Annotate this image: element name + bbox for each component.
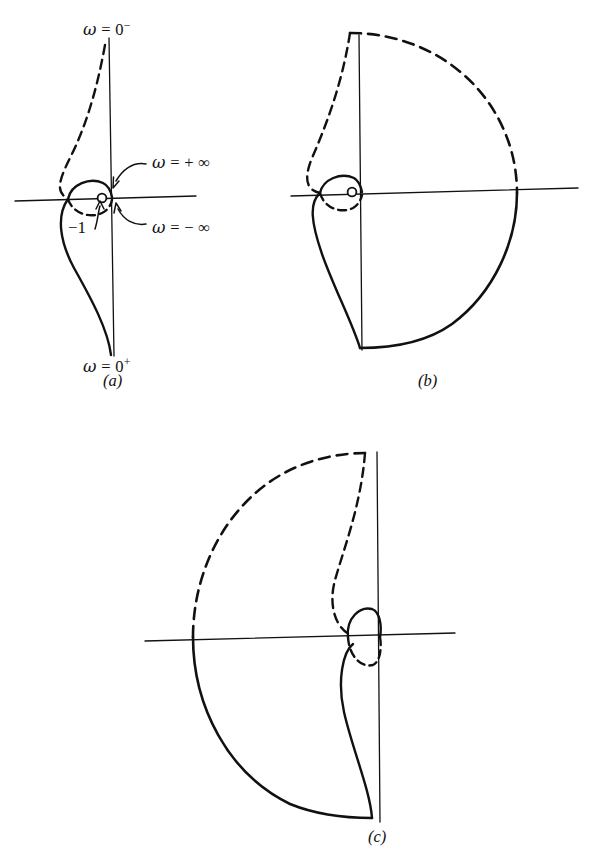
omega-minus-infinity-label: ω = − ∞ (152, 220, 210, 237)
minus-one-point-label: −1 (68, 219, 86, 236)
panel-c-group (145, 452, 455, 822)
panel-b-solid-arc (360, 193, 517, 348)
omega-plus-infinity-label: ω = + ∞ (152, 155, 210, 172)
panel-a-leader-plus-infinity (116, 164, 146, 181)
panel-c-dashed-arc (193, 453, 365, 637)
panel-b-caption: (b) (418, 373, 437, 390)
panel-c-caption: (c) (368, 829, 386, 846)
panel-c-solid-loop (348, 609, 381, 637)
panel-a-leader-minus-infinity (118, 209, 146, 224)
panel-b-dashed-locus (307, 33, 350, 193)
panel-b-real-axis (291, 188, 578, 196)
panel-a-origin-marker (98, 194, 107, 203)
omega-value: = − ∞ (166, 218, 211, 237)
omega-symbol: ω (152, 218, 166, 237)
panel-b-dashed-arc (350, 33, 517, 193)
omega-zero-minus-label: ω = 0− (83, 22, 131, 39)
nyquist-figure: ω = 0− ω = 0+ ω = + ∞ ω = − ∞ −1 (a) (b)… (0, 0, 598, 859)
panel-c-dashed-locus (332, 453, 365, 634)
panel-b-group (291, 33, 578, 350)
panel-b-origin-marker (348, 188, 357, 197)
panel-a-caption: (a) (103, 373, 122, 390)
panel-a-group (15, 38, 196, 356)
nyquist-plot-canvas (0, 0, 598, 859)
panel-c-solid-locus (341, 644, 372, 818)
panel-c-real-axis (145, 633, 455, 641)
panel-c-dashed-loop (348, 637, 381, 665)
panel-b-solid-locus (313, 193, 360, 348)
panel-c-solid-arc (193, 637, 372, 818)
panel-a-dashed-locus (60, 45, 105, 199)
